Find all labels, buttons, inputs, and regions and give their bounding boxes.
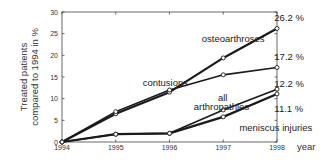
y-tick-label: 10 (50, 95, 58, 102)
x-tick-label: 1996 (162, 144, 178, 151)
y-tick-label: 0 (54, 139, 58, 146)
annotation-label: meniscus injuries (239, 122, 312, 133)
annotation-label: arthropathies (194, 101, 250, 112)
data-marker (168, 131, 172, 135)
y-tick-label: 25 (50, 30, 58, 37)
data-marker (60, 140, 64, 144)
data-marker (221, 73, 225, 77)
x-axis-label: year (297, 141, 315, 152)
data-marker (275, 65, 279, 69)
y-tick-label: 5 (54, 117, 58, 124)
y-tick-label: 15 (50, 74, 58, 81)
annotation-label: osteoarthroses (202, 33, 265, 44)
annotation-label: 17.2 % (274, 51, 304, 62)
data-marker (114, 132, 118, 136)
x-tick-label: 1995 (108, 144, 124, 151)
data-marker (275, 92, 279, 96)
y-tick-label: 20 (50, 52, 58, 59)
annotation-label: 12.2 % (274, 78, 304, 89)
y-axis-label: Treated patientscompared to 1994 in % (18, 28, 40, 126)
line-chart: 19941995199619971998051015202530Treated … (0, 0, 333, 162)
annotation-label: contusions (143, 77, 189, 88)
annotation-label: 11.1 % (274, 103, 303, 114)
x-tick-label: 1998 (269, 144, 285, 151)
x-tick-label: 1997 (215, 144, 231, 151)
data-marker (168, 88, 172, 92)
y-axis-label-line: compared to 1994 in % (29, 28, 40, 126)
data-marker (114, 110, 118, 114)
data-marker (221, 115, 225, 119)
y-axis-label-line: Treated patients (18, 43, 29, 112)
y-tick-label: 30 (50, 9, 58, 16)
annotation-label: 26.2 % (274, 12, 304, 23)
data-marker (275, 26, 279, 30)
data-marker (221, 56, 225, 60)
